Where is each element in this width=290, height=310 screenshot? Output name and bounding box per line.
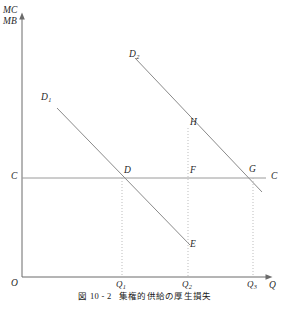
curve-label-d2-base: D [129, 49, 136, 59]
demand-curve-d1 [57, 108, 190, 245]
x-tick-q3-base: Q [247, 279, 254, 289]
caption-number: 図 10 - 2 [78, 291, 111, 301]
demand-curve-d2 [135, 58, 262, 192]
x-axis [22, 274, 273, 280]
caption-title: 集権的供給の厚生損失 [119, 291, 212, 301]
point-label-e: E [190, 240, 196, 250]
figure-container: MC MB Q O C C D1 D2 D F G E H Q1 Q2 Q3 図… [0, 0, 290, 310]
y-axis-label-mc: MC [3, 6, 18, 16]
point-label-g: G [249, 165, 256, 175]
figure-caption: 図 10 - 2集権的供給の厚生損失 [0, 289, 290, 301]
y-axis-label-mb: MB [3, 17, 17, 27]
price-line-label-left: C [11, 172, 18, 182]
y-axis [19, 13, 25, 278]
x-tick-label-q1: Q1 [116, 280, 126, 289]
diagram-canvas [0, 0, 290, 310]
curve-label-d2-sub: 2 [136, 53, 139, 60]
x-tick-q2-base: Q [182, 279, 189, 289]
point-label-f: F [190, 166, 196, 176]
curve-label-d1-base: D [41, 92, 48, 102]
price-line-label-right: C [271, 172, 278, 182]
x-tick-q1-base: Q [116, 279, 123, 289]
curve-label-d1: D1 [41, 93, 51, 103]
point-label-h: H [190, 118, 197, 128]
x-tick-label-q3: Q3 [247, 280, 257, 289]
origin-label: O [11, 279, 18, 289]
x-tick-label-q2: Q2 [182, 280, 192, 289]
point-label-d: D [124, 166, 131, 176]
curve-label-d2: D2 [129, 50, 139, 60]
curve-label-d1-sub: 1 [48, 96, 51, 103]
